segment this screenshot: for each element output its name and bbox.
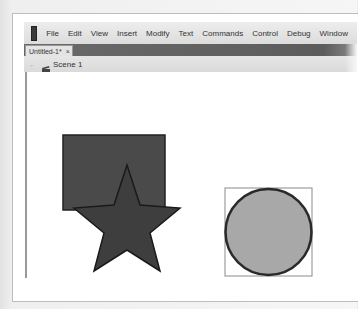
- rectangle-shape[interactable]: [63, 135, 165, 210]
- circle-shape[interactable]: [226, 189, 312, 275]
